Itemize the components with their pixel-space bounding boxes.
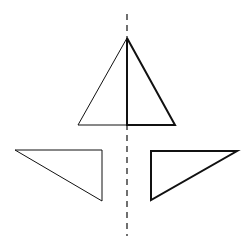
diagram-canvas [0, 0, 251, 249]
symmetry-diagram [0, 0, 251, 249]
